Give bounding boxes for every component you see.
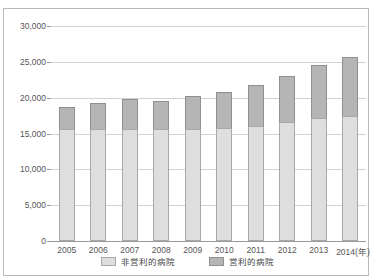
xtick-label-2008: 2008 — [152, 245, 171, 255]
chart-title-partial — [0, 0, 372, 7]
ytick-label-5000: 5,000 — [25, 200, 46, 210]
legend-item-nonprofit: 非営利的病院 — [101, 255, 175, 267]
bar-group-2009[interactable]: 2009 — [185, 26, 201, 241]
ytick-label-20000: 20,000 — [20, 93, 46, 103]
plot-area: 05,00010,00015,00020,00025,00030,000 200… — [51, 26, 366, 241]
bar-group-2006[interactable]: 2006 — [90, 26, 106, 241]
bar-segment-forprofit-2010[interactable] — [216, 92, 232, 129]
bar-group-2008[interactable]: 2008 — [153, 26, 169, 241]
chart-figure: 05,00010,00015,00020,00025,00030,000 200… — [0, 0, 372, 279]
bar-series-container: 2005200620072008200920102011201220132014… — [51, 26, 366, 241]
bar-segment-nonprofit-2009[interactable] — [185, 129, 201, 241]
bar-segment-nonprofit-2008[interactable] — [153, 129, 169, 241]
ytick-label-0: 0 — [41, 236, 46, 246]
xtick-label-2005: 2005 — [57, 245, 76, 255]
xtick-label-2006: 2006 — [89, 245, 108, 255]
legend-swatch-forprofit-icon — [209, 257, 224, 266]
bar-segment-forprofit-2014[interactable] — [342, 57, 358, 116]
ytick-label-25000: 25,000 — [20, 57, 46, 67]
bar-segment-nonprofit-2014[interactable] — [342, 116, 358, 241]
bar-segment-forprofit-2007[interactable] — [122, 99, 138, 129]
bar-segment-nonprofit-2013[interactable] — [311, 118, 327, 241]
bar-group-2014[interactable]: 2014(年) — [342, 26, 358, 241]
chart-frame: 05,00010,00015,00020,00025,00030,000 200… — [3, 8, 369, 276]
bar-segment-nonprofit-2006[interactable] — [90, 129, 106, 241]
bar-segment-nonprofit-2010[interactable] — [216, 128, 232, 241]
xtick-label-2007: 2007 — [120, 245, 139, 255]
bar-segment-forprofit-2008[interactable] — [153, 101, 169, 130]
xtick-label-2010: 2010 — [215, 245, 234, 255]
xtick-label-2011: 2011 — [247, 245, 265, 255]
ytick-label-15000: 15,000 — [20, 129, 46, 139]
bar-group-2011[interactable]: 2011 — [248, 26, 264, 241]
bar-segment-nonprofit-2011[interactable] — [248, 126, 264, 241]
bar-segment-forprofit-2009[interactable] — [185, 96, 201, 129]
bar-segment-nonprofit-2005[interactable] — [59, 129, 75, 241]
xtick-label-2013: 2013 — [309, 245, 328, 255]
chart-legend: 非営利的病院 営利的病院 — [4, 255, 370, 267]
bar-segment-forprofit-2013[interactable] — [311, 65, 327, 119]
ytick-label-30000: 30,000 — [20, 21, 46, 31]
legend-swatch-nonprofit-icon — [101, 257, 116, 266]
bar-segment-forprofit-2011[interactable] — [248, 85, 264, 126]
legend-label-nonprofit: 非営利的病院 — [121, 255, 175, 267]
bar-segment-forprofit-2012[interactable] — [279, 76, 295, 122]
xtick-label-2012: 2012 — [278, 245, 297, 255]
ytick-label-10000: 10,000 — [20, 164, 46, 174]
bar-segment-forprofit-2006[interactable] — [90, 103, 106, 129]
bar-group-2012[interactable]: 2012 — [279, 26, 295, 241]
ytick-dash-0 — [47, 241, 51, 242]
bar-group-2005[interactable]: 2005 — [59, 26, 75, 241]
bar-group-2007[interactable]: 2007 — [122, 26, 138, 241]
legend-label-forprofit: 営利的病院 — [229, 255, 274, 267]
bar-segment-nonprofit-2012[interactable] — [279, 122, 295, 241]
xtick-label-2009: 2009 — [183, 245, 202, 255]
bar-segment-forprofit-2005[interactable] — [59, 107, 75, 129]
gridline-0 — [51, 241, 366, 242]
bar-group-2010[interactable]: 2010 — [216, 26, 232, 241]
legend-item-forprofit: 営利的病院 — [209, 255, 274, 267]
bar-group-2013[interactable]: 2013 — [311, 26, 327, 241]
bar-segment-nonprofit-2007[interactable] — [122, 129, 138, 241]
